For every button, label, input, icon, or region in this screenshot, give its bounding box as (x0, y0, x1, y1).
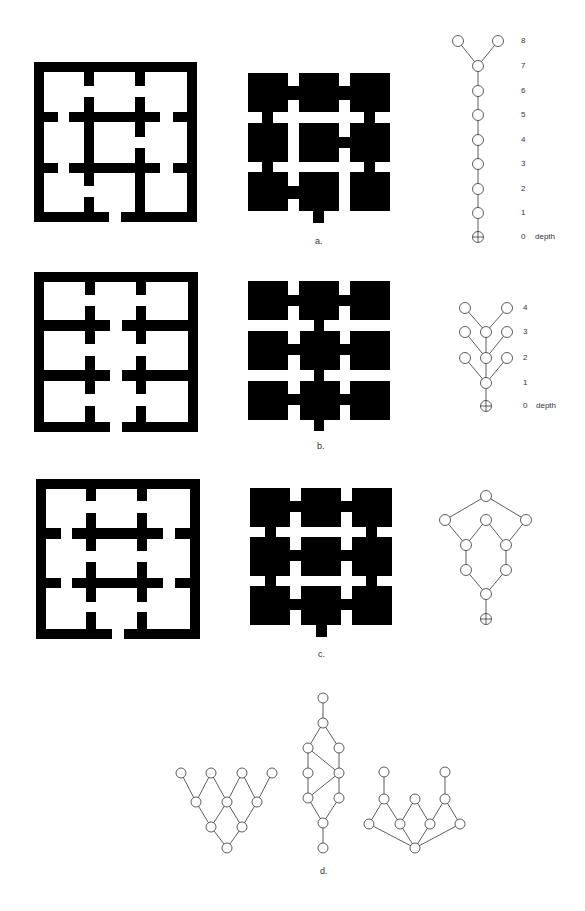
panel-caption-d: d. (320, 866, 328, 876)
panel-d-graph-3 (0, 0, 585, 911)
